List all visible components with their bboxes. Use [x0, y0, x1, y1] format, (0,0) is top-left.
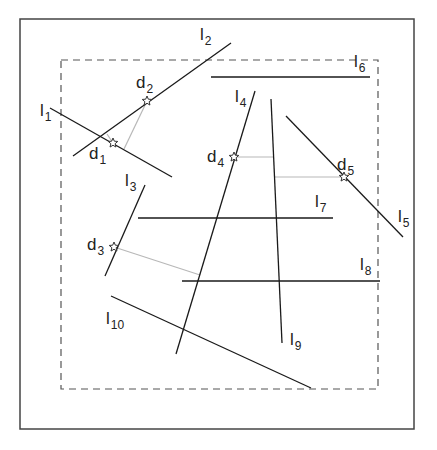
outer-frame: [20, 19, 414, 429]
label-d2: d2: [136, 73, 153, 96]
connector-d3: [114, 247, 200, 275]
line-l4: [176, 91, 255, 354]
label-l1: l1: [40, 101, 52, 124]
label-l6: l6: [354, 52, 366, 75]
dashed-region: [61, 60, 378, 389]
diagram-canvas: l1l2l3l4l5l6l7l8l9l10d1d2d3d4d5: [0, 0, 437, 450]
label-l8: l8: [360, 255, 372, 278]
label-d4: d4: [207, 147, 224, 170]
star-icon: [229, 152, 239, 161]
point-group: [108, 96, 349, 251]
line-l9: [271, 99, 282, 343]
label-l5: l5: [398, 207, 410, 230]
label-d1: d1: [89, 144, 106, 167]
star-icon: [142, 96, 152, 105]
connector-d2: [124, 101, 147, 149]
label-l3: l3: [125, 171, 137, 194]
star-icon: [109, 242, 119, 251]
label-l10: l10: [106, 309, 124, 332]
label-l7: l7: [315, 192, 327, 215]
label-l4: l4: [235, 87, 247, 110]
label-d5: d5: [337, 155, 354, 178]
line-group: [50, 43, 403, 388]
label-l9: l9: [290, 330, 302, 353]
label-d3: d3: [87, 235, 104, 258]
line-l3: [105, 185, 145, 276]
label-l2: l2: [200, 25, 212, 48]
